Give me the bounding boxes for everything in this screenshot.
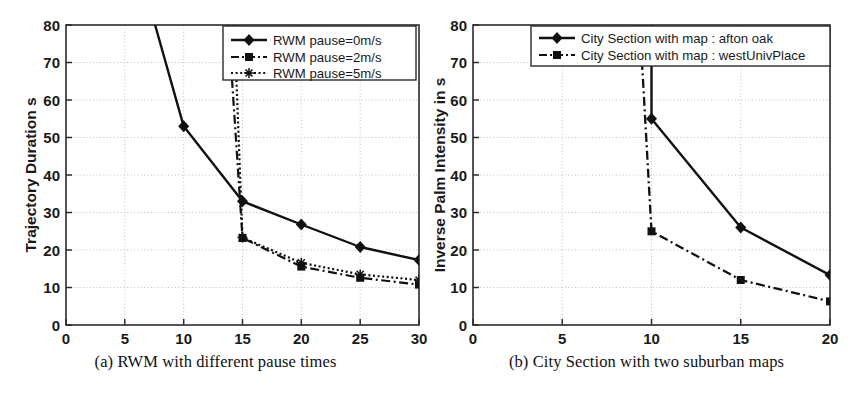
caption-a: (a) RWM with different pause times xyxy=(0,352,431,372)
x-tick-label: 5 xyxy=(121,330,129,347)
legend-label: City Section with map : westUnivPlace xyxy=(581,48,805,63)
figure-two-panel-charts: 80 70 60 50 40 30 20 10 0 0 5 10 15 20 2… xyxy=(0,0,863,407)
panel-b: 80 70 60 50 40 30 20 10 0 0 5 10 15 20 xyxy=(431,0,862,407)
x-tick-label: 30 xyxy=(411,330,428,347)
panel-a: 80 70 60 50 40 30 20 10 0 0 5 10 15 20 2… xyxy=(0,0,431,407)
x-tick-label: 10 xyxy=(175,330,192,347)
x-tick-label: 10 xyxy=(643,330,660,347)
x-tick-label: 0 xyxy=(469,330,477,347)
y-axis-title-b: Inverse Palm Intensity in s xyxy=(431,78,448,273)
y-tick-label: 80 xyxy=(450,17,467,34)
y-tick-label: 50 xyxy=(43,129,60,146)
x-tick-label: 0 xyxy=(62,330,70,347)
x-tick-label: 20 xyxy=(293,330,310,347)
series-westunivplace xyxy=(640,25,834,305)
y-tick-label: 40 xyxy=(43,167,60,184)
legend-label: RWM pause=2m/s xyxy=(273,50,382,65)
y-tick-label: 0 xyxy=(459,317,467,334)
x-tick-marks-a xyxy=(66,319,419,325)
x-tick-label: 5 xyxy=(558,330,566,347)
y-tick-marks-b xyxy=(473,25,479,325)
legend-label: RWM pause=0m/s xyxy=(273,33,382,48)
star-marker-icon xyxy=(244,68,254,78)
square-marker-icon xyxy=(553,51,561,59)
y-tick-label: 40 xyxy=(450,167,467,184)
y-tick-label: 30 xyxy=(43,204,60,221)
x-tick-label: 15 xyxy=(732,330,749,347)
series-markers xyxy=(239,234,424,289)
y-tick-marks-a xyxy=(66,25,72,325)
chart-a: 80 70 60 50 40 30 20 10 0 0 5 10 15 20 2… xyxy=(0,0,431,350)
legend-label: RWM pause=5m/s xyxy=(273,66,382,81)
y-axis-title-a: Trajectory Duration s xyxy=(22,97,39,252)
y-tick-label: 50 xyxy=(450,129,467,146)
series-markers xyxy=(178,120,424,266)
y-tick-label: 20 xyxy=(450,242,467,259)
y-tick-label: 60 xyxy=(43,92,60,109)
square-marker-icon xyxy=(245,53,253,61)
chart-b: 80 70 60 50 40 30 20 10 0 0 5 10 15 20 xyxy=(431,0,862,350)
x-tick-marks-b xyxy=(473,319,830,325)
y-tick-label: 70 xyxy=(43,54,60,71)
x-tick-label: 15 xyxy=(234,330,251,347)
legend-label: City Section with map : afton oak xyxy=(581,31,773,46)
y-tick-label: 0 xyxy=(52,317,60,334)
caption-b: (b) City Section with two suburban maps xyxy=(431,352,862,372)
y-tick-label: 10 xyxy=(43,279,60,296)
legend-a[interactable]: RWM pause=0m/s RWM pause=2m/s RWM pause=… xyxy=(223,26,416,81)
y-tick-label: 10 xyxy=(450,279,467,296)
x-tick-label: 25 xyxy=(352,330,369,347)
y-tick-label: 20 xyxy=(43,242,60,259)
legend-b[interactable]: City Section with map : afton oak City S… xyxy=(531,26,830,66)
y-tick-label: 70 xyxy=(450,54,467,71)
x-tick-label: 20 xyxy=(822,330,839,347)
y-tick-label: 60 xyxy=(450,92,467,109)
y-tick-label: 80 xyxy=(43,17,60,34)
y-tick-label: 30 xyxy=(450,204,467,221)
